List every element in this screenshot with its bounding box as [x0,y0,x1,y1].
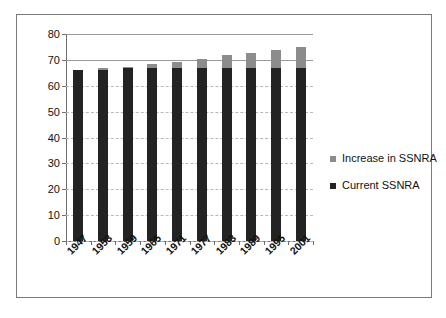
bar-segment-current-1989 [246,68,256,241]
y-tick-mark-60 [62,86,66,87]
bar-segment-current-2001 [296,68,306,241]
y-tick-label-70: 70 [48,54,60,65]
bar-segment-current-1977 [197,68,207,241]
bar-group-1995 [271,34,281,241]
bar-group-1959 [123,34,133,241]
x-tick-mark-10 [313,241,314,245]
y-tick-mark-80 [62,34,66,35]
bar-group-1965 [147,34,157,241]
bar-segment-current-1965 [147,68,157,241]
legend-item-current-ssnra[interactable]: Current SSNRA [330,180,446,191]
y-tick-label-40: 40 [48,132,60,143]
y-tick-label-20: 20 [48,184,60,195]
chart-legend: Increase in SSNRACurrent SSNRA [330,153,446,207]
bar-group-1989 [246,34,256,241]
y-tick-label-30: 30 [48,158,60,169]
x-tick-mark-9 [288,241,289,245]
bar-segment-increase-1983 [222,55,232,67]
chart-figure: 80706050403020100 1947195319591965197119… [0,0,446,318]
bar-segment-current-1953 [98,70,108,241]
plot-area: 80706050403020100 [66,34,313,241]
bar-group-2001 [296,34,306,241]
y-tick-label-50: 50 [48,106,60,117]
bar-segment-increase-2001 [296,47,306,67]
legend-label: Current SSNRA [342,180,420,191]
y-tick-mark-70 [62,60,66,61]
legend-item-increase-in-ssnra[interactable]: Increase in SSNRA [330,153,446,164]
bar-segment-current-1983 [222,68,232,241]
chart-frame: 80706050403020100 1947195319591965197119… [16,14,432,298]
y-tick-label-0: 0 [54,236,60,247]
y-tick-mark-10 [62,215,66,216]
bar-segment-increase-1995 [271,50,281,68]
bar-group-1983 [222,34,232,241]
y-tick-mark-50 [62,112,66,113]
bar-segment-increase-1989 [246,53,256,67]
y-tick-label-80: 80 [48,29,60,40]
x-tick-mark-6 [214,241,215,245]
bar-segment-increase-1971 [172,62,182,68]
bar-group-1971 [172,34,182,241]
bar-segment-current-1971 [172,68,182,241]
y-tick-label-60: 60 [48,80,60,91]
bar-segment-increase-1965 [147,64,157,68]
bar-segment-increase-1953 [98,68,108,69]
y-tick-mark-30 [62,163,66,164]
legend-label: Increase in SSNRA [342,153,437,164]
bar-group-1977 [197,34,207,241]
y-tick-mark-40 [62,138,66,139]
bar-group-1953 [98,34,108,241]
bar-segment-current-1995 [271,68,281,241]
bar-group-1947 [73,34,83,241]
bar-segment-current-1947 [73,70,83,241]
y-tick-label-10: 10 [48,210,60,221]
bar-segment-increase-1977 [197,59,207,67]
bar-segment-increase-1959 [123,67,133,68]
legend-swatch-icon [330,156,336,162]
bar-segment-current-1959 [123,68,133,241]
legend-swatch-icon [330,183,336,189]
y-tick-mark-20 [62,189,66,190]
